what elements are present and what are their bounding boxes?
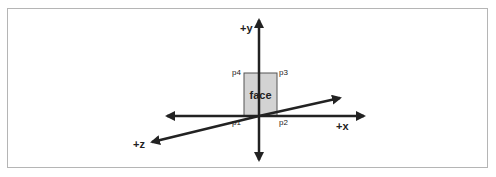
y-axis-label: +y [240, 22, 253, 34]
z-axis-label: +z [133, 138, 145, 150]
z-axis-positive [152, 116, 259, 142]
corner-p2-label: p2 [279, 118, 288, 127]
coordinate-diagram: +y +x +z face p1 p2 p3 p4 [0, 0, 496, 177]
face-label: face [249, 89, 271, 101]
corner-p1-label: p1 [232, 118, 241, 127]
corner-p3-label: p3 [279, 68, 288, 77]
corner-p4-label: p4 [232, 68, 241, 77]
x-axis-label: +x [336, 120, 349, 132]
